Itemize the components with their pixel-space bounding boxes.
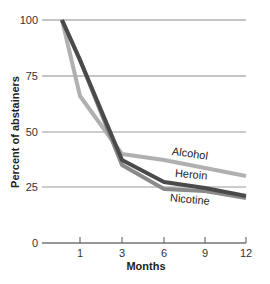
series-alcohol-line bbox=[62, 20, 246, 176]
y-tick-75: 75 bbox=[26, 70, 38, 82]
y-tick-0: 0 bbox=[32, 237, 38, 249]
label-nicotine: Nicotine bbox=[170, 191, 211, 206]
label-alcohol: Alcohol bbox=[171, 145, 208, 162]
y-tick-50: 50 bbox=[26, 126, 38, 138]
x-tick-1: 1 bbox=[77, 247, 83, 259]
x-ticks bbox=[80, 237, 246, 243]
chart: 100 75 50 25 0 1 3 6 9 12 Months Percent… bbox=[0, 0, 270, 284]
x-tick-12: 12 bbox=[240, 247, 252, 259]
y-axis-title: Percent of abstainers bbox=[9, 76, 21, 188]
gridlines bbox=[42, 20, 246, 243]
y-tick-100: 100 bbox=[20, 14, 38, 26]
x-axis-title: Months bbox=[126, 260, 165, 272]
label-heroin: Heroin bbox=[175, 167, 208, 182]
x-tick-9: 9 bbox=[202, 247, 208, 259]
x-tick-3: 3 bbox=[119, 247, 125, 259]
y-tick-25: 25 bbox=[26, 181, 38, 193]
x-tick-6: 6 bbox=[161, 247, 167, 259]
